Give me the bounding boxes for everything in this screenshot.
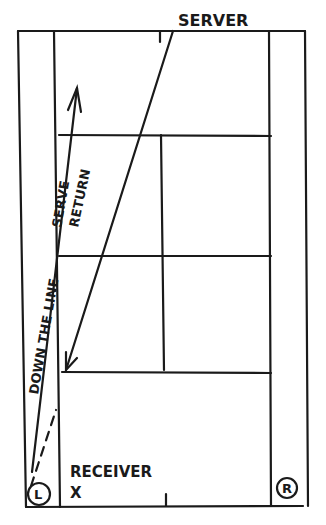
- server-label: SERVER: [178, 11, 248, 30]
- doubles-sideline-left: [18, 31, 26, 507]
- receiver-label: RECEIVER: [70, 463, 152, 481]
- tennis-court-diagram: SERVER RECEIVER X L R SERVE RETURN DOWN …: [0, 0, 326, 525]
- receiver-position-mark: X: [70, 484, 82, 502]
- doubles-sideline-right: [305, 31, 308, 506]
- down-the-line-label: DOWN THE LINE: [26, 277, 61, 395]
- left-marker-label: L: [34, 487, 42, 502]
- center-service-line: [161, 135, 164, 370]
- right-marker-label: R: [282, 481, 292, 496]
- service-line-top: [59, 135, 271, 136]
- singles-sideline-right: [269, 31, 271, 506]
- baseline-bottom: [26, 506, 303, 507]
- return-label: RETURN: [66, 168, 93, 229]
- service-line-bottom: [62, 372, 271, 373]
